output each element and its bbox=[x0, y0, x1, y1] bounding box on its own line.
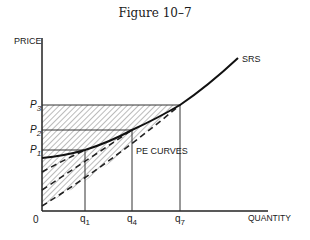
pe-curves-label: PE CURVES bbox=[136, 146, 188, 156]
quantity-axis-label: QUANTITY bbox=[248, 213, 291, 223]
srs-label: SRS bbox=[242, 54, 261, 64]
q4-label: q4 bbox=[127, 213, 138, 227]
q7-label: q7 bbox=[175, 213, 186, 227]
p1-label: P1 bbox=[30, 144, 41, 158]
price-axis-label: PRICE bbox=[14, 36, 42, 46]
supply-diagram: PRICE QUANTITY 0 P3 P2 P1 q1 q4 q7 SRS P… bbox=[0, 0, 310, 240]
origin-label: 0 bbox=[33, 214, 39, 225]
p3-label: P3 bbox=[30, 99, 42, 113]
p2-label: P2 bbox=[30, 124, 42, 138]
q1-label: q1 bbox=[80, 213, 91, 227]
